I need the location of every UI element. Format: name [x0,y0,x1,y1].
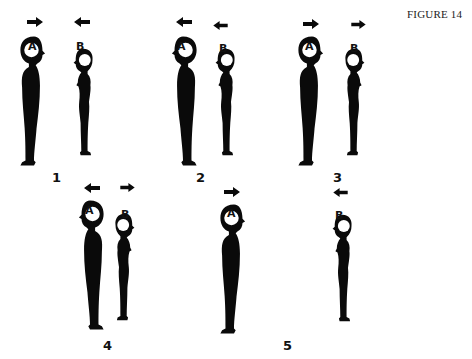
arrow-left-icon [333,188,348,197]
panel-number-2: 2 [196,170,205,185]
label-b: B [76,40,84,53]
arrow-right-icon [351,20,366,29]
panel-number-3: 3 [333,170,342,185]
label-a: A [85,204,94,217]
label-a: A [177,40,186,53]
arrow-left-icon [213,21,228,30]
label-a: A [305,40,314,53]
arrow-right-icon [303,19,319,29]
arrow-right-icon [120,183,135,192]
label-b: B [219,42,227,55]
panel-number-4: 4 [103,338,112,353]
panel-number-1: 1 [52,170,61,185]
figure-title: FIGURE 14 [407,8,462,20]
panel-number-5: 5 [283,338,292,353]
label-b: B [335,209,343,222]
person-b-silhouette [68,32,96,172]
arrow-right-icon [27,17,43,27]
label-b: B [121,208,129,221]
arrow-right-icon [224,187,240,197]
label-a: A [227,207,236,220]
arrow-left-icon [84,183,100,193]
label-a: A [28,40,37,53]
arrow-left-icon [176,17,192,27]
arrow-left-icon [74,17,90,27]
label-b: B [350,42,358,55]
